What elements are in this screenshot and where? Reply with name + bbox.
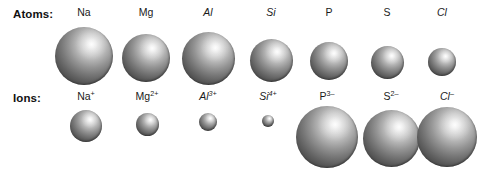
sphere-Cl bbox=[428, 48, 456, 76]
species-label-Si4: Si4+ bbox=[259, 91, 277, 102]
species-label-S2: S2– bbox=[383, 91, 398, 102]
sphere-Al bbox=[182, 32, 235, 85]
sphere-Si bbox=[250, 39, 293, 82]
ions-row-label: Ions: bbox=[13, 92, 41, 104]
sphere-Si4 bbox=[262, 115, 274, 127]
sphere-Na bbox=[55, 27, 113, 85]
sphere-S2 bbox=[363, 110, 420, 167]
species-label-Na: Na bbox=[77, 7, 90, 18]
sphere-Na bbox=[70, 110, 102, 142]
charge-superscript: 2+ bbox=[150, 89, 158, 98]
species-label-Al3: Al3+ bbox=[199, 91, 217, 102]
charge-superscript: 3– bbox=[327, 89, 335, 98]
species-label-S: S bbox=[383, 7, 390, 18]
sphere-S bbox=[371, 46, 404, 79]
species-label-Si: Si bbox=[266, 7, 275, 18]
sphere-Al3 bbox=[199, 113, 217, 131]
atoms-row-label: Atoms: bbox=[13, 8, 53, 20]
sphere-Mg2 bbox=[136, 113, 159, 136]
species-label-Mg2: Mg2+ bbox=[136, 91, 159, 102]
species-label-P3: P3– bbox=[319, 91, 334, 102]
species-label-Cl: Cl bbox=[437, 7, 447, 18]
sphere-Mg bbox=[122, 34, 170, 82]
species-label-P: P bbox=[325, 7, 332, 18]
charge-superscript: + bbox=[91, 89, 95, 98]
periodic-radii-figure: Atoms: Ions: NaMgAlSiPSCl Na+Mg2+Al3+Si4… bbox=[0, 0, 482, 175]
sphere-P bbox=[310, 42, 348, 80]
charge-superscript: 2– bbox=[391, 89, 399, 98]
species-label-Cl: Cl– bbox=[440, 91, 454, 102]
sphere-Cl bbox=[417, 107, 477, 167]
species-label-Al: Al bbox=[203, 7, 212, 18]
species-label-Mg: Mg bbox=[139, 7, 154, 18]
species-label-Na: Na+ bbox=[77, 91, 95, 102]
charge-superscript: 4+ bbox=[269, 89, 277, 98]
sphere-P3 bbox=[296, 106, 358, 168]
charge-superscript: 3+ bbox=[209, 89, 217, 98]
charge-superscript: – bbox=[450, 89, 454, 98]
